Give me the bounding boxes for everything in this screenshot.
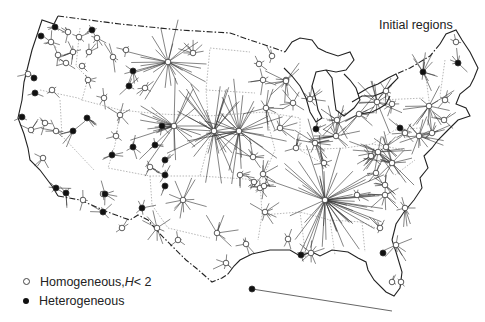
homogeneous-center: [356, 111, 362, 117]
region-centers: [19, 24, 461, 292]
homogeneous-center: [382, 192, 388, 198]
homogeneous-center: [293, 145, 299, 151]
homogeneous-center: [453, 39, 459, 45]
homogeneous-center: [389, 101, 395, 107]
homogeneous-center: [442, 97, 448, 103]
homogeneous-center: [86, 49, 92, 55]
heterogeneous-center: [130, 144, 136, 150]
heterogeneous-center: [162, 157, 168, 163]
homogeneous-center: [429, 130, 435, 136]
homogeneous-center: [85, 77, 91, 83]
figure: Initial regions Homogeneous, H < 2 Heter…: [0, 0, 485, 322]
legend-label-heterogeneous: Heterogeneous: [39, 294, 124, 308]
homogeneous-center: [333, 133, 339, 139]
homogeneous-center: [113, 133, 119, 139]
homogeneous-center: [285, 236, 291, 242]
heterogeneous-center: [84, 115, 90, 121]
homogeneous-center: [40, 155, 46, 161]
homogeneous-center: [110, 54, 116, 60]
homogeneous-center: [80, 197, 86, 203]
legend: Homogeneous, H < 2 Heterogeneous: [22, 272, 152, 310]
homogeneous-center: [398, 279, 404, 285]
homogeneous-center: [165, 59, 171, 65]
homogeneous-center: [251, 179, 257, 185]
heterogeneous-center: [249, 286, 255, 292]
homogeneous-center: [180, 197, 186, 203]
homogeneous-center: [175, 237, 181, 243]
homogeneous-center: [94, 35, 100, 41]
homogeneous-center: [322, 197, 328, 203]
homogeneous-center: [307, 96, 313, 102]
region-spokes: [14, 20, 467, 287]
homogeneous-center: [290, 100, 296, 106]
homogeneous-center: [142, 85, 148, 91]
homogeneous-center: [65, 29, 71, 35]
heterogeneous-center: [70, 128, 76, 134]
homogeneous-center: [101, 95, 107, 101]
homogeneous-center: [262, 209, 268, 215]
heterogeneous-center: [19, 114, 25, 120]
legend-label-homogeneous: Homogeneous,: [40, 275, 125, 289]
map-title: Initial regions: [379, 18, 453, 32]
heterogeneous-center: [32, 90, 38, 96]
homogeneous-center: [48, 39, 54, 45]
heterogeneous-center: [313, 126, 319, 132]
heterogeneous-center: [100, 209, 106, 215]
legend-var: H: [125, 275, 134, 289]
homogeneous-center: [402, 130, 408, 136]
homogeneous-center: [55, 52, 61, 58]
homogeneous-center: [76, 34, 82, 40]
heterogeneous-center: [109, 152, 115, 158]
heterogeneous-center: [152, 142, 158, 148]
heterogeneous-center: [63, 190, 69, 196]
homogeneous-center: [374, 99, 380, 105]
homogeneous-center: [383, 88, 389, 94]
legend-item-homogeneous: Homogeneous, H < 2: [22, 272, 152, 291]
callout-line: [252, 289, 392, 311]
homogeneous-center: [70, 49, 76, 55]
homogeneous-center: [237, 172, 243, 178]
homogeneous-center: [263, 105, 269, 111]
filled-circle-icon: [23, 298, 29, 304]
heterogeneous-center: [397, 125, 403, 131]
homogeneous-center: [260, 171, 266, 177]
heterogeneous-center: [31, 75, 37, 81]
heterogeneous-center: [53, 185, 59, 191]
homogeneous-center: [123, 47, 129, 53]
homogeneous-center: [49, 87, 55, 93]
homogeneous-center: [321, 160, 327, 166]
homogeneous-center: [373, 170, 379, 176]
heterogeneous-center: [162, 183, 168, 189]
homogeneous-center: [236, 128, 242, 134]
homogeneous-center: [147, 164, 153, 170]
homogeneous-center: [223, 260, 229, 266]
homogeneous-center: [426, 103, 432, 109]
homogeneous-center: [243, 241, 249, 247]
heterogeneous-center: [162, 172, 168, 178]
heterogeneous-center: [139, 205, 145, 211]
heterogeneous-center: [298, 252, 304, 258]
homogeneous-center: [117, 112, 123, 118]
legend-item-heterogeneous: Heterogeneous: [22, 291, 152, 310]
homogeneous-center: [214, 230, 220, 236]
homogeneous-center: [389, 160, 395, 166]
homogeneous-center: [119, 225, 125, 231]
heterogeneous-center: [380, 250, 386, 256]
homogeneous-center: [42, 120, 48, 126]
homogeneous-center: [308, 250, 314, 256]
homogeneous-center: [28, 127, 34, 133]
homogeneous-center: [393, 242, 399, 248]
heterogeneous-center: [455, 60, 461, 66]
homogeneous-center: [261, 183, 267, 189]
homogeneous-center: [383, 144, 389, 150]
heterogeneous-center: [420, 69, 426, 75]
homogeneous-center: [312, 140, 318, 146]
homogeneous-center: [190, 50, 196, 56]
homogeneous-center: [25, 71, 31, 77]
homogeneous-center: [368, 153, 374, 159]
homogeneous-center: [171, 123, 177, 129]
heterogeneous-center: [126, 83, 132, 89]
homogeneous-center: [441, 117, 447, 123]
homogeneous-center: [250, 154, 256, 160]
homogeneous-center: [79, 63, 85, 69]
